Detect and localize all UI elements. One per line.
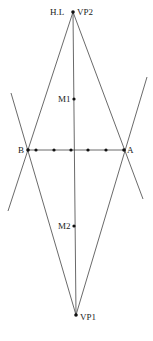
point-m2 [72, 224, 75, 227]
line-vp1-a [76, 77, 147, 315]
line-vp2-b [8, 12, 73, 211]
label-m2: M2 [58, 221, 71, 231]
point-a [122, 148, 126, 152]
division-point [86, 148, 89, 151]
division-point [34, 148, 37, 151]
point-b [26, 148, 30, 152]
point-vp2 [71, 10, 75, 14]
division-point [52, 148, 55, 151]
perspective-diagram: H.L VP2 M1 M2 VP1 B A [0, 0, 153, 341]
point-m1 [72, 97, 75, 100]
label-vp1: VP1 [80, 312, 96, 322]
division-point [69, 148, 72, 151]
line-vp2-a [73, 12, 143, 199]
vertical-axis-line [73, 12, 76, 315]
line-vp1-b [11, 93, 76, 315]
point-vp1 [74, 313, 78, 317]
label-a: A [127, 145, 134, 155]
label-hl: H.L [50, 7, 64, 17]
division-point [104, 148, 107, 151]
label-b: B [18, 145, 24, 155]
label-m1: M1 [58, 94, 71, 104]
label-vp2: VP2 [77, 7, 93, 17]
